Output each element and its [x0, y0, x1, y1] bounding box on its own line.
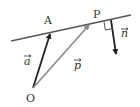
- diagram-canvas: A P O a p n: [0, 0, 140, 107]
- label-P: P: [93, 8, 101, 21]
- label-A: A: [43, 14, 53, 27]
- vector-line-diagram: A P O a p n: [0, 0, 140, 107]
- label-O: O: [26, 92, 35, 105]
- vector-n-arrow: [111, 20, 116, 54]
- vector-a-arrow: [33, 34, 50, 88]
